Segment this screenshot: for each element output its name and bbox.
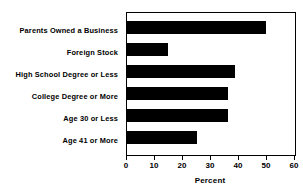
tick-label: 40 xyxy=(228,161,248,171)
tick-mark xyxy=(126,155,127,160)
bar xyxy=(127,131,197,144)
tick-label: 0 xyxy=(116,161,136,171)
tick-label: 60 xyxy=(284,161,303,171)
bar xyxy=(127,21,266,34)
tick-label: 30 xyxy=(200,161,220,171)
bar xyxy=(127,43,168,56)
category-label: Foreign Stock xyxy=(0,48,118,57)
bars-container xyxy=(127,13,295,155)
bar-chart: Parents Owned a Business Foreign Stock H… xyxy=(0,0,303,195)
tick-label: 20 xyxy=(172,161,192,171)
tick-label: 50 xyxy=(256,161,276,171)
category-label: Parents Owned a Business xyxy=(0,26,118,35)
category-axis-labels: Parents Owned a Business Foreign Stock H… xyxy=(0,12,122,154)
x-axis-title: Percent xyxy=(126,176,294,185)
category-label: College Degree or More xyxy=(0,92,118,101)
plot-area xyxy=(126,12,296,156)
category-label: Age 30 or Less xyxy=(0,114,118,123)
tick-mark xyxy=(210,155,211,160)
category-label: Age 41 or More xyxy=(0,136,118,145)
bar xyxy=(127,109,228,122)
tick-mark xyxy=(154,155,155,160)
tick-mark xyxy=(294,155,295,160)
bar xyxy=(127,65,235,78)
tick-mark xyxy=(238,155,239,160)
tick-label: 10 xyxy=(144,161,164,171)
bar xyxy=(127,87,228,100)
category-label: High School Degree or Less xyxy=(0,70,118,79)
tick-mark xyxy=(182,155,183,160)
tick-mark xyxy=(266,155,267,160)
